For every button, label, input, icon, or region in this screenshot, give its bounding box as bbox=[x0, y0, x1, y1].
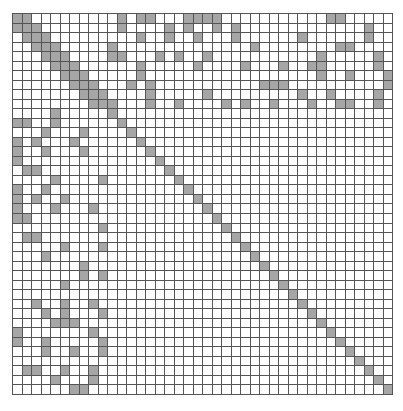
filled-cell bbox=[61, 300, 71, 310]
empty-cell bbox=[298, 128, 308, 138]
empty-cell bbox=[42, 14, 52, 24]
empty-cell bbox=[222, 33, 232, 43]
empty-cell bbox=[222, 319, 232, 329]
empty-cell bbox=[251, 71, 261, 81]
empty-cell bbox=[23, 252, 33, 262]
empty-cell bbox=[175, 24, 185, 34]
empty-cell bbox=[374, 43, 384, 53]
empty-cell bbox=[298, 214, 308, 224]
empty-cell bbox=[289, 33, 299, 43]
empty-cell bbox=[260, 166, 270, 176]
empty-cell bbox=[241, 128, 251, 138]
empty-cell bbox=[365, 185, 375, 195]
empty-cell bbox=[175, 166, 185, 176]
empty-cell bbox=[365, 62, 375, 72]
empty-cell bbox=[32, 100, 42, 110]
empty-cell bbox=[165, 271, 175, 281]
empty-cell bbox=[327, 338, 337, 348]
empty-cell bbox=[184, 366, 194, 376]
empty-cell bbox=[270, 243, 280, 253]
empty-cell bbox=[108, 319, 118, 329]
empty-cell bbox=[118, 366, 128, 376]
empty-cell bbox=[384, 204, 394, 214]
empty-cell bbox=[42, 376, 52, 386]
empty-cell bbox=[70, 195, 80, 205]
empty-cell bbox=[222, 90, 232, 100]
empty-cell bbox=[184, 100, 194, 110]
empty-cell bbox=[51, 271, 61, 281]
empty-cell bbox=[251, 24, 261, 34]
empty-cell bbox=[156, 309, 166, 319]
empty-cell bbox=[118, 224, 128, 234]
empty-cell bbox=[175, 90, 185, 100]
empty-cell bbox=[70, 43, 80, 53]
empty-cell bbox=[336, 252, 346, 262]
empty-cell bbox=[23, 185, 33, 195]
empty-cell bbox=[194, 319, 204, 329]
empty-cell bbox=[165, 224, 175, 234]
empty-cell bbox=[336, 385, 346, 395]
empty-cell bbox=[89, 233, 99, 243]
filled-cell bbox=[184, 24, 194, 34]
empty-cell bbox=[289, 109, 299, 119]
empty-cell bbox=[279, 309, 289, 319]
filled-cell bbox=[346, 100, 356, 110]
empty-cell bbox=[232, 204, 242, 214]
empty-cell bbox=[232, 347, 242, 357]
empty-cell bbox=[89, 185, 99, 195]
empty-cell bbox=[61, 33, 71, 43]
empty-cell bbox=[203, 376, 213, 386]
empty-cell bbox=[232, 176, 242, 186]
empty-cell bbox=[146, 138, 156, 148]
empty-cell bbox=[232, 243, 242, 253]
filled-cell bbox=[80, 90, 90, 100]
empty-cell bbox=[260, 33, 270, 43]
filled-cell bbox=[99, 224, 109, 234]
empty-cell bbox=[99, 14, 109, 24]
empty-cell bbox=[51, 290, 61, 300]
empty-cell bbox=[279, 195, 289, 205]
empty-cell bbox=[13, 319, 23, 329]
empty-cell bbox=[165, 119, 175, 129]
empty-cell bbox=[51, 281, 61, 291]
filled-cell bbox=[61, 71, 71, 81]
empty-cell bbox=[108, 147, 118, 157]
empty-cell bbox=[23, 347, 33, 357]
empty-cell bbox=[184, 300, 194, 310]
filled-cell bbox=[13, 185, 23, 195]
empty-cell bbox=[184, 119, 194, 129]
empty-cell bbox=[241, 328, 251, 338]
empty-cell bbox=[317, 100, 327, 110]
empty-cell bbox=[42, 366, 52, 376]
empty-cell bbox=[23, 300, 33, 310]
filled-cell bbox=[108, 43, 118, 53]
empty-cell bbox=[308, 147, 318, 157]
empty-cell bbox=[308, 176, 318, 186]
empty-cell bbox=[270, 43, 280, 53]
empty-cell bbox=[51, 128, 61, 138]
empty-cell bbox=[156, 128, 166, 138]
empty-cell bbox=[203, 24, 213, 34]
empty-cell bbox=[327, 233, 337, 243]
empty-cell bbox=[23, 109, 33, 119]
empty-cell bbox=[374, 366, 384, 376]
empty-cell bbox=[127, 90, 137, 100]
empty-cell bbox=[346, 176, 356, 186]
empty-cell bbox=[146, 366, 156, 376]
filled-cell bbox=[384, 71, 394, 81]
empty-cell bbox=[384, 166, 394, 176]
empty-cell bbox=[127, 233, 137, 243]
empty-cell bbox=[327, 271, 337, 281]
empty-cell bbox=[374, 347, 384, 357]
empty-cell bbox=[336, 366, 346, 376]
filled-cell bbox=[241, 100, 251, 110]
empty-cell bbox=[336, 81, 346, 91]
filled-cell bbox=[327, 328, 337, 338]
empty-cell bbox=[80, 376, 90, 386]
filled-cell bbox=[13, 195, 23, 205]
empty-cell bbox=[308, 376, 318, 386]
empty-cell bbox=[194, 366, 204, 376]
empty-cell bbox=[89, 195, 99, 205]
empty-cell bbox=[118, 290, 128, 300]
empty-cell bbox=[203, 214, 213, 224]
